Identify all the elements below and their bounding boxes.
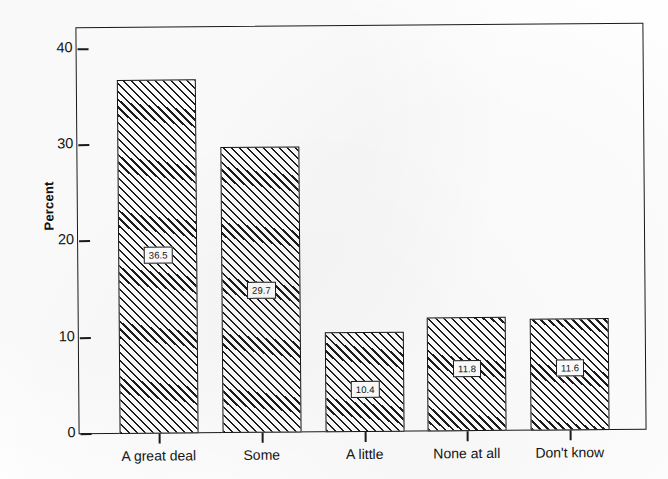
- bars-layer: [0, 0, 666, 3]
- y-tick-mark: [78, 144, 89, 146]
- bar-value-label: 10.4: [351, 381, 380, 398]
- bar-value-labels: 36.5 29.7 10.4 11.8 11.6: [0, 0, 666, 3]
- y-tick-label: 40: [12, 39, 72, 55]
- x-tick-mark: [467, 431, 469, 441]
- y-tick-label: 20: [14, 231, 74, 247]
- x-tick-mark: [159, 434, 161, 444]
- bar-value-label: 36.5: [144, 246, 173, 263]
- plot-rotor: Percent 40 30 20 10 0: [0, 0, 668, 479]
- y-tick-mark: [80, 337, 91, 339]
- x-tick-label-a-little: A little: [346, 446, 383, 462]
- y-tick-label: 0: [16, 424, 76, 440]
- y-tick-mark: [79, 240, 90, 242]
- bar-value-label: 11.8: [453, 360, 481, 377]
- x-tick-label-dont-know: Don't know: [535, 444, 604, 461]
- bar-value-label: 11.6: [556, 359, 584, 376]
- y-tick-mark: [81, 433, 92, 435]
- x-tick-mark: [262, 433, 264, 443]
- x-axis-ticks: A great deal Some A little None at all D…: [0, 0, 666, 3]
- bar-value-label: 29.7: [247, 282, 276, 299]
- x-tick-mark: [570, 430, 572, 440]
- y-tick-label: 30: [13, 135, 73, 151]
- y-tick-label: 10: [15, 328, 75, 344]
- x-tick-label-some: Some: [243, 447, 280, 463]
- y-tick-mark: [78, 48, 89, 50]
- bar-chart-figure: Percent 40 30 20 10 0: [0, 0, 668, 479]
- x-tick-label-none-at-all: None at all: [433, 445, 500, 462]
- y-axis-ticks: 40 30 20 10 0: [0, 0, 666, 3]
- x-tick-label-a-great-deal: A great deal: [121, 447, 196, 464]
- x-tick-mark: [365, 432, 367, 442]
